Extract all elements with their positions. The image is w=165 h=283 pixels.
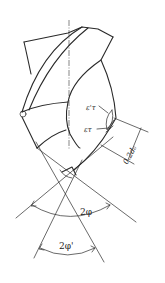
label-eps-prime-tau: ε'τ bbox=[86, 105, 96, 112]
eps-leader bbox=[97, 128, 109, 129]
label-2phi: 2φ bbox=[80, 208, 92, 217]
eps-prime-leader bbox=[99, 106, 108, 113]
label-eps-tau: ετ bbox=[84, 127, 92, 134]
arc-2phi bbox=[32, 205, 110, 217]
drill-drawing bbox=[0, 0, 165, 283]
label-2phi-prime: 2φ' bbox=[59, 242, 74, 251]
drill-point-diagram: ε'τ ετ 0.2d₀ 2φ 2φ' bbox=[0, 0, 165, 283]
angle-construction-lines bbox=[16, 137, 136, 262]
drill-body bbox=[20, 27, 116, 178]
